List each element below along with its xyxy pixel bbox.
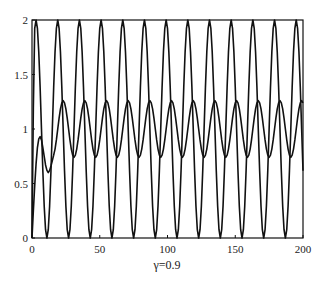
y-tick-label: 0.5 — [14, 178, 28, 190]
x-tick-label: 100 — [159, 243, 176, 255]
x-tick-label: 150 — [227, 243, 244, 255]
plot-frame — [32, 20, 303, 238]
chart: 05010015020000.511.52 γ=0.9 — [0, 0, 328, 286]
x-axis-label: γ=0.9 — [152, 258, 180, 272]
y-tick-label: 0 — [23, 232, 29, 244]
plot-lines — [32, 20, 303, 238]
series-line-0 — [32, 20, 303, 238]
y-tick-label: 1 — [23, 123, 29, 135]
x-tick-label: 200 — [295, 243, 312, 255]
x-tick-label: 50 — [94, 243, 106, 255]
x-tick-label: 0 — [29, 243, 35, 255]
y-tick-label: 1.5 — [14, 69, 28, 81]
y-tick-label: 2 — [23, 14, 29, 26]
